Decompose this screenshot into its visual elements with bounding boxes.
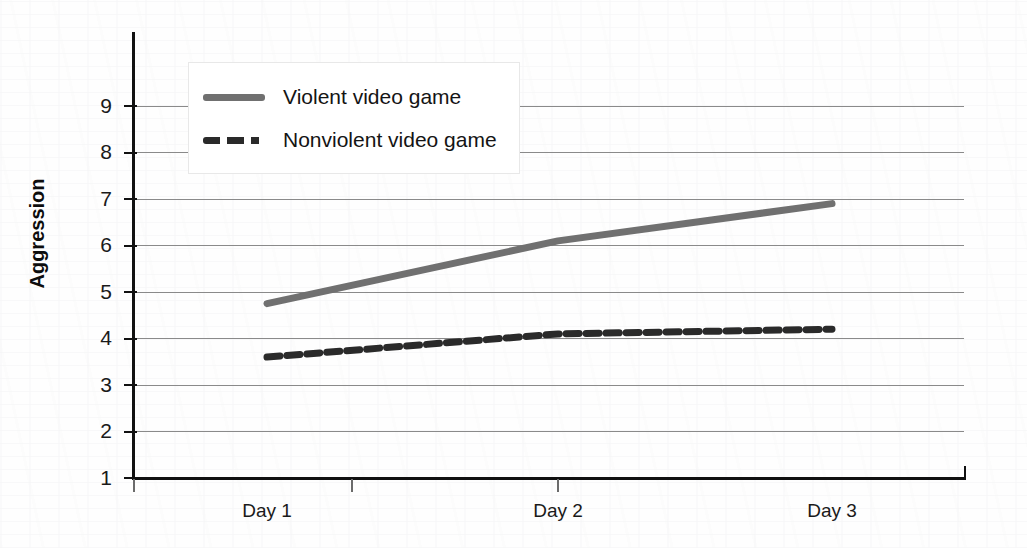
x-tick-label-day-1: Day 1 [207, 500, 327, 522]
series-line-nonviolent [267, 329, 832, 357]
y-tick-label-7: 7 [72, 187, 112, 211]
legend-entry-violent: Violent video game [203, 80, 461, 114]
x-tick-label-day-2: Day 2 [498, 500, 618, 522]
y-tick-label-5: 5 [72, 280, 112, 304]
y-tick-label-9: 9 [72, 94, 112, 118]
line-chart-figure: Aggression 9 8 7 6 5 4 3 2 1 Day 1 Day 2… [0, 0, 1027, 548]
y-tick-label-2: 2 [72, 419, 112, 443]
y-tick-label-3: 3 [72, 373, 112, 397]
x-tick-marks [352, 479, 558, 492]
x-tick-label-day-3: Day 3 [772, 500, 892, 522]
legend-label-violent: Violent video game [283, 85, 461, 109]
solid-line-swatch [203, 94, 265, 101]
chart-legend: Violent video game Nonviolent video game [188, 62, 520, 174]
y-tick-label-6: 6 [72, 233, 112, 257]
y-tick-label-8: 8 [72, 140, 112, 164]
y-tick-label-1: 1 [72, 466, 112, 490]
y-axis-title: Aggression [26, 154, 49, 314]
dashed-line-swatch [203, 137, 265, 144]
y-tick-label-4: 4 [72, 326, 112, 350]
legend-entry-nonviolent: Nonviolent video game [203, 123, 497, 157]
series-line-violent [267, 204, 832, 304]
legend-label-nonviolent: Nonviolent video game [283, 128, 497, 152]
